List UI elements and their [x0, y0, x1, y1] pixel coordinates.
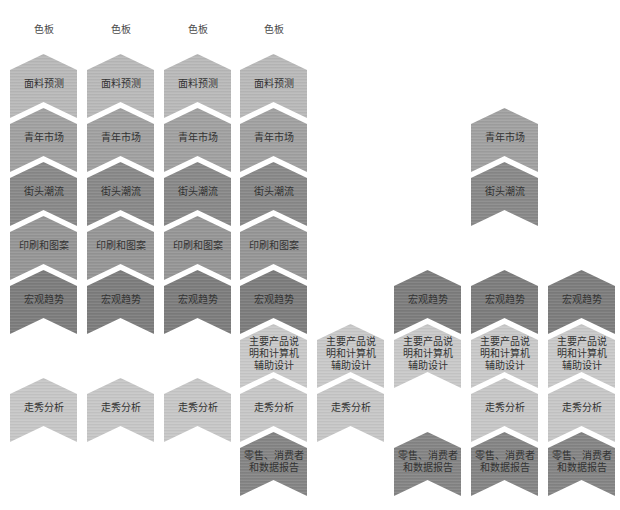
- chevron-label: 主要产品说明和计算机辅助设计: [317, 338, 384, 370]
- label-line: 宏观趋势: [408, 294, 448, 306]
- label-line: 走秀分析: [101, 402, 141, 414]
- label-line: 印刷和图案: [173, 240, 223, 252]
- label-line: 主要产品说: [480, 336, 530, 348]
- chevron-key-product-cad: 主要产品说明和计算机辅助设计: [394, 324, 461, 388]
- label-line: 印刷和图案: [96, 240, 146, 252]
- chevron-label: 印刷和图案: [240, 230, 307, 262]
- chevron-runway-analysis: 走秀分析: [87, 378, 154, 442]
- chevron-label: 青年市场: [240, 122, 307, 154]
- label-line: 青年市场: [178, 132, 218, 144]
- label-line: 青年市场: [24, 132, 64, 144]
- label-line: 宏观趋势: [24, 294, 64, 306]
- chevron-label: 面料预测: [87, 68, 154, 100]
- label-line: 街头潮流: [178, 186, 218, 198]
- label-line: 明和计算机: [403, 348, 453, 360]
- chevron-label: 街头潮流: [471, 176, 538, 208]
- chevron-label: 走秀分析: [240, 392, 307, 424]
- chevron-label: 宏观趋势: [548, 284, 615, 316]
- chevron-runway-analysis: 走秀分析: [164, 378, 231, 442]
- label-line: 青年市场: [485, 132, 525, 144]
- chevron-label: 零售、消费者和数据报告: [548, 446, 615, 478]
- label-line: 街头潮流: [254, 186, 294, 198]
- label-line: 零售、消费者: [244, 450, 304, 462]
- label-line: 零售、消费者: [475, 450, 535, 462]
- chevron-label: 零售、消费者和数据报告: [394, 446, 461, 478]
- label-line: 零售、消费者: [398, 450, 458, 462]
- chevron-label: 主要产品说明和计算机辅助设计: [240, 338, 307, 370]
- chevron-label: 色板: [10, 14, 77, 46]
- label-line: 和数据报告: [249, 462, 299, 474]
- chevron-street-trend: 街头潮流: [471, 162, 538, 226]
- chevron-retail-consumer-data: 零售、消费者和数据报告: [471, 432, 538, 496]
- chevron-label: 面料预测: [10, 68, 77, 100]
- label-line: 宏观趋势: [254, 294, 294, 306]
- chevron-runway-analysis: 走秀分析: [317, 378, 384, 442]
- label-line: 主要产品说: [326, 336, 376, 348]
- chevron-retail-consumer-data: 零售、消费者和数据报告: [240, 432, 307, 496]
- column-4: 色板 面料预测 青年市场 街头潮流 印刷和图案 宏观趋势 主要产品说明和计算机辅…: [240, 0, 307, 510]
- label-line: 和数据报告: [557, 462, 607, 474]
- label-line: 零售、消费者: [552, 450, 612, 462]
- label-line: 主要产品说: [249, 336, 299, 348]
- label-line: 面料预测: [101, 78, 141, 90]
- label-line: 宏观趋势: [178, 294, 218, 306]
- label-line: 辅助设计: [331, 360, 371, 372]
- label-line: 走秀分析: [254, 402, 294, 414]
- label-line: 街头潮流: [24, 186, 64, 198]
- label-line: 色板: [264, 24, 284, 36]
- label-line: 主要产品说: [403, 336, 453, 348]
- label-line: 印刷和图案: [19, 240, 69, 252]
- chevron-label: 宏观趋势: [10, 284, 77, 316]
- label-line: 走秀分析: [178, 402, 218, 414]
- chevron-label: 青年市场: [10, 122, 77, 154]
- chevron-label: 街头潮流: [87, 176, 154, 208]
- column-1: 色板 面料预测 青年市场 街头潮流 印刷和图案 宏观趋势 走秀分析: [10, 0, 77, 510]
- chevron-label: 色板: [87, 14, 154, 46]
- label-line: 明和计算机: [480, 348, 530, 360]
- label-line: 辅助设计: [562, 360, 602, 372]
- chevron-label: 印刷和图案: [164, 230, 231, 262]
- chevron-macro-trend: 宏观趋势: [87, 270, 154, 334]
- chevron-label: 走秀分析: [10, 392, 77, 424]
- label-line: 面料预测: [254, 78, 294, 90]
- label-line: 青年市场: [254, 132, 294, 144]
- label-line: 主要产品说: [557, 336, 607, 348]
- chevron-label: 走秀分析: [471, 392, 538, 424]
- chevron-label: 宏观趋势: [394, 284, 461, 316]
- chevron-label: 主要产品说明和计算机辅助设计: [394, 338, 461, 370]
- chevron-label: 色板: [164, 14, 231, 46]
- label-line: 走秀分析: [485, 402, 525, 414]
- chevron-macro-trend: 宏观趋势: [164, 270, 231, 334]
- chevron-label: 青年市场: [87, 122, 154, 154]
- chevron-retail-consumer-data: 零售、消费者和数据报告: [394, 432, 461, 496]
- chevron-macro-trend: 宏观趋势: [10, 270, 77, 334]
- column-6: 宏观趋势 主要产品说明和计算机辅助设计 零售、消费者和数据报告: [394, 0, 461, 510]
- chevron-label: 印刷和图案: [87, 230, 154, 262]
- label-line: 街头潮流: [101, 186, 141, 198]
- chevron-label: 面料预测: [240, 68, 307, 100]
- label-line: 色板: [188, 24, 208, 36]
- column-3: 色板 面料预测 青年市场 街头潮流 印刷和图案 宏观趋势 走秀分析: [164, 0, 231, 510]
- label-line: 宏观趋势: [101, 294, 141, 306]
- column-5: 主要产品说明和计算机辅助设计 走秀分析: [317, 0, 384, 510]
- label-line: 辅助设计: [485, 360, 525, 372]
- chevron-label: 街头潮流: [10, 176, 77, 208]
- label-line: 走秀分析: [24, 402, 64, 414]
- chevron-label: 印刷和图案: [10, 230, 77, 262]
- chevron-retail-consumer-data: 零售、消费者和数据报告: [548, 432, 615, 496]
- label-line: 和数据报告: [480, 462, 530, 474]
- label-line: 青年市场: [101, 132, 141, 144]
- chevron-label: 色板: [240, 14, 307, 46]
- label-line: 印刷和图案: [249, 240, 299, 252]
- chevron-label: 主要产品说明和计算机辅助设计: [471, 338, 538, 370]
- label-line: 色板: [34, 24, 54, 36]
- chevron-process-diagram: 色板 面料预测 青年市场 街头潮流 印刷和图案 宏观趋势 走秀分析 色板 面料预…: [0, 0, 620, 510]
- column-8: 宏观趋势 主要产品说明和计算机辅助设计 走秀分析 零售、消费者和数据报告: [548, 0, 615, 510]
- label-line: 面料预测: [178, 78, 218, 90]
- label-line: 明和计算机: [557, 348, 607, 360]
- label-line: 街头潮流: [485, 186, 525, 198]
- label-line: 走秀分析: [562, 402, 602, 414]
- label-line: 宏观趋势: [562, 294, 602, 306]
- chevron-label: 街头潮流: [164, 176, 231, 208]
- label-line: 辅助设计: [254, 360, 294, 372]
